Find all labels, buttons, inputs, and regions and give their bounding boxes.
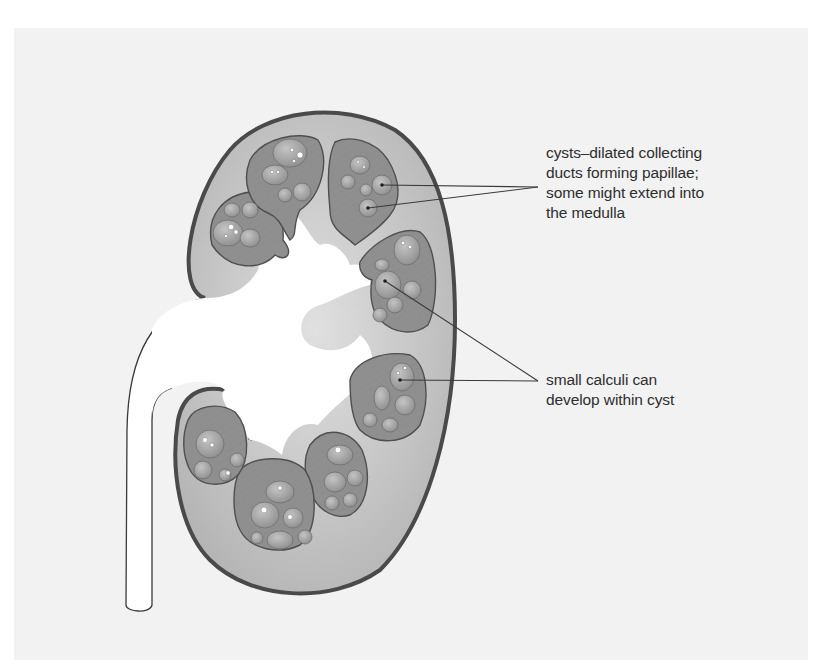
label-cysts-line-1: cysts–dilated collecting	[546, 143, 704, 163]
label-cysts: cysts–dilated collecting ducts forming p…	[546, 143, 704, 223]
label-cysts-line-3: some might extend into	[546, 183, 704, 203]
label-cysts-line-2: ducts forming papillae;	[546, 163, 704, 183]
label-calculi-line-1: small calculi can	[546, 370, 674, 390]
label-calculi-line-2: develop within cyst	[546, 390, 674, 410]
kidney-diagram	[0, 0, 821, 670]
label-cysts-line-4: the medulla	[546, 203, 704, 223]
label-calculi: small calculi can develop within cyst	[546, 370, 674, 410]
